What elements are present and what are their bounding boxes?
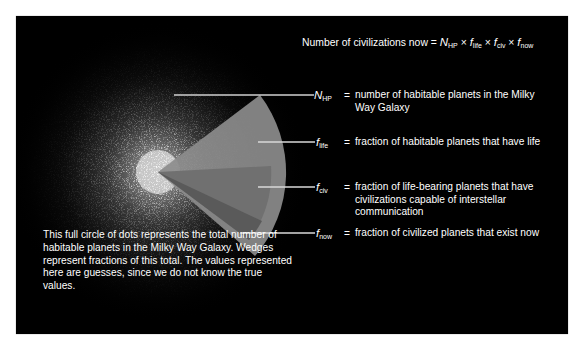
label-nhp-description: number of habitable planets in the Milky… bbox=[355, 89, 555, 114]
label-flife-description: fraction of habitable planets that have … bbox=[355, 136, 568, 149]
times-sign: × bbox=[508, 37, 514, 48]
drake-equation: Number of civilizations now = NHP × flif… bbox=[302, 36, 533, 49]
formula-equals: = bbox=[431, 37, 437, 48]
label-fciv-description: fraction of life-bearing planets that ha… bbox=[355, 181, 545, 219]
label-flife: flife=fraction of habitable planets that… bbox=[316, 136, 568, 153]
diagram-panel: Number of civilizations now = NHP × flif… bbox=[16, 16, 568, 334]
formula-term-fciv: fciv bbox=[494, 36, 506, 48]
label-fnow: fnow=fraction of civilized planets that … bbox=[316, 227, 568, 244]
times-sign: × bbox=[485, 37, 491, 48]
caption: This full circle of dots represents the … bbox=[43, 229, 293, 293]
times-sign: × bbox=[461, 37, 467, 48]
formula-term-flife: flife bbox=[470, 36, 482, 48]
label-nhp: NHP=number of habitable planets in the M… bbox=[314, 89, 555, 114]
label-fciv: fciv=fraction of life-bearing planets th… bbox=[316, 181, 545, 219]
label-fnow-description: fraction of civilized planets that exist… bbox=[355, 227, 568, 240]
formula-term-fnow: fnow bbox=[517, 36, 533, 48]
formula-lhs: Number of civilizations now bbox=[302, 37, 428, 48]
formula-term-nhp: NHP bbox=[440, 36, 458, 48]
